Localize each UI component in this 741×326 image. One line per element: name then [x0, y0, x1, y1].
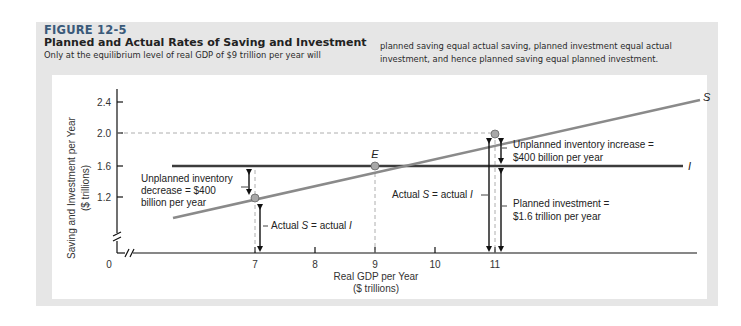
svg-text:2.0: 2.0 — [97, 128, 111, 139]
svg-text:7: 7 — [252, 259, 258, 270]
x-axis — [117, 247, 697, 257]
svg-text:$1.6 trillion per year: $1.6 trillion per year — [513, 211, 601, 222]
svg-text:billion per year: billion per year — [141, 197, 207, 208]
saving-line-label: S — [703, 91, 711, 103]
chart: Saving and Investment per Year ($ trilli… — [0, 0, 741, 326]
svg-text:Saving and Investment per Year: Saving and Investment per Year — [66, 116, 77, 258]
svg-text:0: 0 — [106, 259, 112, 270]
svg-text:Planned investment =: Planned investment = — [513, 198, 610, 209]
actual-left-label: Actual S = actual I — [271, 220, 352, 231]
svg-text:1.2: 1.2 — [97, 192, 111, 203]
svg-text:decrease = $400: decrease = $400 — [141, 185, 216, 196]
planned-investment-label: Planned investment = $1.6 trillion per y… — [513, 198, 610, 222]
svg-text:8: 8 — [312, 259, 318, 270]
svg-text:2.4: 2.4 — [97, 97, 111, 108]
svg-text:($ trillions): ($ trillions) — [80, 165, 91, 211]
x-tick-labels: 0 7 8 9 10 11 — [106, 259, 500, 270]
actual-right-label: Actual S = actual I — [392, 189, 473, 200]
unplanned-increase-label: Unplanned inventory increase = $400 bill… — [513, 139, 654, 163]
equilibrium-label: E — [371, 148, 379, 160]
svg-text:11: 11 — [490, 259, 501, 270]
x-axis-label: Real GDP per Year ($ trillions) — [334, 271, 420, 294]
y-tick-labels: 2.4 2.0 1.6 1.2 — [97, 97, 111, 203]
y-axis-label: Saving and Investment per Year ($ trilli… — [66, 116, 91, 258]
svg-text:Unplanned inventory increase =: Unplanned inventory increase = — [513, 139, 654, 150]
svg-text:$400 billion per year: $400 billion per year — [513, 152, 604, 163]
investment-line-label: I — [688, 160, 691, 172]
svg-text:10: 10 — [429, 259, 441, 270]
y-axis — [113, 89, 123, 253]
unplanned-decrease-label: Unplanned inventory decrease = $400 bill… — [141, 173, 233, 208]
svg-text:Unplanned inventory: Unplanned inventory — [141, 173, 233, 184]
svg-text:9: 9 — [372, 259, 378, 270]
svg-text:1.6: 1.6 — [97, 161, 111, 172]
svg-text:($ trillions): ($ trillions) — [353, 283, 399, 294]
svg-text:Real GDP per Year: Real GDP per Year — [334, 271, 420, 282]
